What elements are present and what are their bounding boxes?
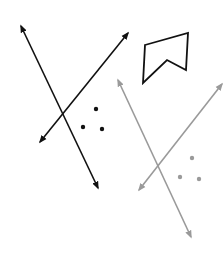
gray-double-arrow-line-2: [139, 84, 222, 190]
black-double-arrow-line-1: [21, 26, 98, 188]
black-dot-1: [94, 107, 98, 111]
black-dot-2: [81, 125, 85, 129]
gray-double-arrow-line-1: [118, 80, 191, 237]
gray-dot-3: [197, 177, 201, 181]
pentagon-shape: [143, 33, 188, 83]
gray-lines-group: [118, 80, 222, 237]
gray-dot-1: [190, 156, 194, 160]
black-lines-group: [21, 26, 128, 188]
gray-dot-2: [178, 175, 182, 179]
black-dot-3: [100, 127, 104, 131]
diagram-canvas: [0, 0, 224, 256]
